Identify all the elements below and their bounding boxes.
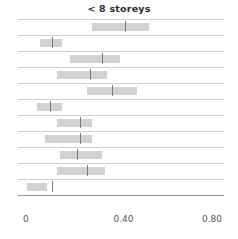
median-marker — [77, 149, 78, 160]
interval-bar — [27, 183, 47, 191]
interval-bar — [57, 71, 107, 79]
plot-area — [18, 19, 224, 208]
median-marker — [125, 21, 126, 32]
x-tick-label: 0 — [23, 214, 29, 224]
median-marker — [52, 181, 53, 192]
median-marker — [52, 37, 53, 48]
interval-bar — [70, 55, 120, 63]
interval-bar — [40, 39, 62, 47]
median-marker — [112, 85, 113, 96]
chart-container: < 8 storeys 00.400.80 — [0, 0, 238, 239]
median-marker — [87, 165, 88, 176]
chart-row — [18, 83, 224, 99]
interval-bar — [60, 151, 102, 159]
median-marker — [80, 133, 81, 144]
median-marker — [50, 101, 51, 112]
interval-bar — [57, 119, 92, 127]
median-marker — [102, 53, 103, 64]
median-marker — [90, 69, 91, 80]
chart-title: < 8 storeys — [0, 3, 238, 14]
interval-bar — [92, 23, 149, 31]
interval-bar — [45, 135, 92, 143]
chart-row — [18, 179, 224, 195]
x-tick-label: 0.80 — [202, 214, 222, 224]
chart-row — [18, 19, 224, 35]
chart-row — [18, 99, 224, 115]
interval-bar — [57, 167, 104, 175]
chart-row — [18, 51, 224, 67]
x-axis-line — [18, 195, 224, 196]
chart-row — [18, 35, 224, 51]
chart-row — [18, 147, 224, 163]
chart-row — [18, 115, 224, 131]
chart-row — [18, 163, 224, 179]
median-marker — [80, 117, 81, 128]
chart-row — [18, 131, 224, 147]
x-axis-tick-labels: 00.400.80 — [0, 214, 238, 228]
chart-row — [18, 67, 224, 83]
x-tick-label: 0.40 — [114, 214, 134, 224]
